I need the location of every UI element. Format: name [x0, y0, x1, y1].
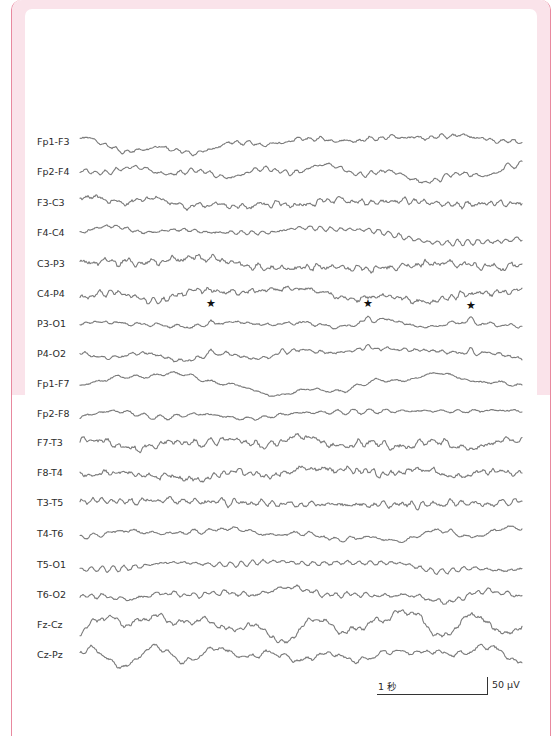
trace-group — [80, 134, 522, 669]
eeg-trace-f8-t4 — [80, 466, 522, 482]
channel-label-fp2-f8: Fp2-F8 — [37, 408, 69, 420]
eeg-trace-f4-c4 — [80, 225, 522, 246]
spike-marker-star-icon: ★ — [206, 298, 216, 309]
eeg-trace-fp2-f8 — [80, 409, 522, 420]
eeg-trace-f7-t3 — [80, 433, 522, 452]
scale-amplitude-label: 50 μV — [492, 679, 520, 690]
eeg-trace-p3-o1 — [80, 316, 522, 329]
channel-label-f3-c3: F3-C3 — [37, 197, 65, 209]
channel-label-p4-o2: P4-O2 — [37, 348, 66, 360]
eeg-trace-c4-p4 — [80, 286, 522, 304]
channel-label-p3-o1: P3-O1 — [37, 318, 66, 330]
scale-time-label: 1 秒 — [378, 679, 397, 693]
eeg-figure: Fp1-F3 Fp2-F4 F3-C3 F4-C4 C3-P3 C4-P4 P3… — [0, 0, 559, 736]
channel-label-t3-t5: T3-T5 — [37, 497, 63, 509]
channel-label-c4-p4: C4-P4 — [37, 288, 65, 300]
eeg-trace-fp2-f4 — [80, 161, 522, 183]
channel-label-f8-t4: F8-T4 — [37, 467, 63, 479]
channel-label-fz-cz: Fz-Cz — [37, 619, 63, 631]
channel-label-fp1-f3: Fp1-F3 — [37, 136, 69, 148]
spike-marker-star-icon: ★ — [466, 300, 476, 311]
eeg-trace-p4-o2 — [80, 345, 522, 362]
channel-label-cz-pz: Cz-Pz — [37, 649, 63, 661]
channel-label-f4-c4: F4-C4 — [37, 227, 65, 239]
eeg-trace-t5-o1 — [80, 559, 522, 574]
eeg-trace-t4-t6 — [80, 526, 522, 543]
eeg-traces — [0, 0, 559, 736]
eeg-trace-f3-c3 — [80, 195, 522, 211]
scale-amplitude-line — [487, 677, 488, 695]
eeg-trace-fz-cz — [80, 610, 522, 643]
scale-time-line — [377, 694, 488, 695]
channel-label-fp2-f4: Fp2-F4 — [37, 166, 69, 178]
eeg-trace-fp1-f7 — [80, 372, 522, 397]
eeg-trace-c3-p3 — [80, 254, 522, 273]
spike-marker-star-icon: ★ — [363, 298, 373, 309]
channel-label-f7-t3: F7-T3 — [37, 437, 63, 449]
channel-label-t6-o2: T6-O2 — [37, 589, 66, 601]
channel-label-fp1-f7: Fp1-F7 — [37, 378, 69, 390]
eeg-trace-cz-pz — [80, 644, 522, 668]
channel-label-t4-t6: T4-T6 — [37, 528, 63, 540]
channel-label-t5-o1: T5-O1 — [37, 559, 66, 571]
channel-label-c3-p3: C3-P3 — [37, 258, 65, 270]
eeg-trace-t3-t5 — [80, 497, 522, 510]
eeg-trace-fp1-f3 — [80, 134, 522, 156]
eeg-trace-t6-o2 — [80, 585, 522, 604]
